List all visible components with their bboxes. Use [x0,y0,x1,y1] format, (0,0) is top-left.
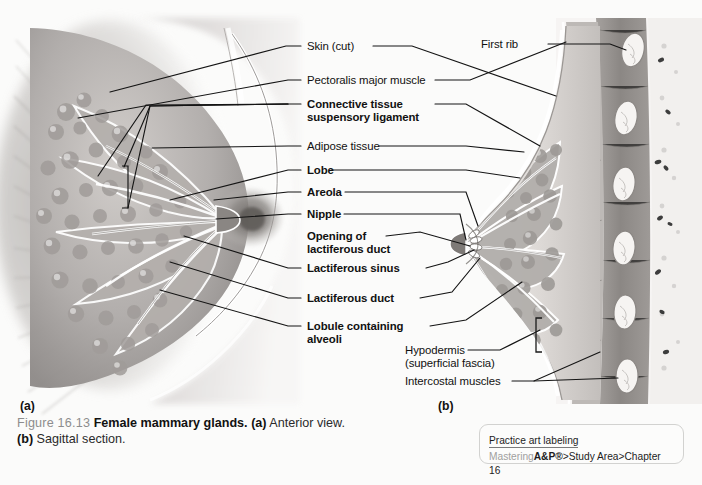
label-lactiferous-duct-opening-line2: lactiferous duct [307,243,390,256]
label-skin-cut: Skin (cut) [307,40,354,53]
practice-path-prefix: Mastering [489,451,534,462]
label-intercostal-muscles: Intercostal muscles [405,375,501,388]
figure-caption: Figure 16.13 Female mammary glands. (a) … [17,416,347,447]
label-adipose-tissue: Adipose tissue [307,140,380,153]
leader-duct-b [420,258,480,298]
caption-part-b-tag: (b) [17,432,33,446]
caption-part-a-text: Anterior view. [269,416,345,430]
leader-sinus-b [426,250,474,268]
label-lobule-line1: Lobule containing [307,320,403,333]
leader-connective-b [435,104,540,146]
leader-adipose-b [379,146,524,152]
label-hypodermis-line1: Hypodermis [405,344,465,357]
label-suspensory-ligament-line2: suspensory ligament [307,111,419,124]
caption-part-a-tag: (a) [251,416,266,430]
label-pectoralis-major: Pectoralis major muscle [307,74,426,87]
label-lactiferous-sinus: Lactiferous sinus [307,262,400,275]
leader-lobe-b [331,170,520,178]
label-first-rib: First rib [481,38,518,51]
label-superficial-fascia-line2: (superficial fascia) [405,357,495,370]
intercostal-muscles-band [596,18,650,404]
figure-number: Figure 16.13 [17,416,90,430]
label-areola: Areola [307,186,342,199]
figure-title: Female mammary glands. [94,416,248,430]
practice-heading: Practice art labeling [489,435,578,448]
label-lactiferous-duct: Lactiferous duct [307,292,394,305]
panel-letter-b: (b) [438,399,454,413]
leader-hypodermis [468,330,540,350]
panel-letter-a: (a) [20,399,35,413]
practice-path: MasteringA&P®>Study Area>Chapter 16 [489,450,674,477]
nipple-anterior [239,207,265,231]
label-opening-line1: Opening of [307,230,366,243]
practice-art-labeling-box[interactable]: Practice art labeling MasteringA&P®>Stud… [479,424,684,464]
caption-part-b-text: Sagittal section. [37,432,126,446]
gland-lobes-b [466,142,564,361]
label-connective-tissue-line1: Connective tissue [307,98,403,111]
panel-b-sagittal-section [450,18,702,404]
practice-path-brand: A&P® [534,451,563,462]
figure-page: Skin (cut) Pectoralis major muscle Conne… [0,0,702,485]
label-nipple: Nipple [307,208,341,221]
label-lobe: Lobe [307,164,334,177]
label-alveoli-line2: alveoli [307,333,342,346]
leader-skin-cut-b [373,46,556,96]
leader-areola-b [345,192,478,226]
deep-tissue-column [648,18,702,404]
